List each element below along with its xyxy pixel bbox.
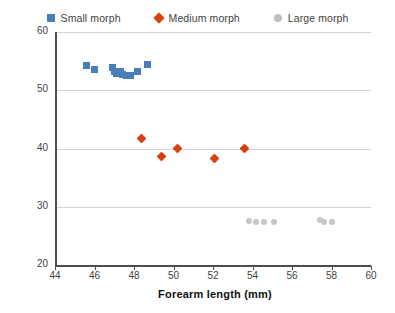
y-tick-label: 60 — [28, 25, 48, 36]
y-tick-label: 50 — [28, 83, 48, 94]
y-axis-line — [55, 32, 57, 267]
x-tick-label: 58 — [320, 270, 344, 281]
x-tick-label: 54 — [241, 270, 265, 281]
x-tick-label: 50 — [162, 270, 186, 281]
x-tick-label: 46 — [83, 270, 107, 281]
gridline — [55, 32, 371, 33]
data-point-diamond — [240, 144, 250, 154]
y-tick-label: 30 — [28, 200, 48, 211]
data-point-circle — [246, 218, 252, 224]
x-axis-line — [55, 265, 371, 267]
data-point-circle — [321, 219, 327, 225]
x-tick-label: 60 — [359, 270, 383, 281]
data-point-diamond — [157, 152, 167, 162]
x-tick-label: 56 — [280, 270, 304, 281]
data-point-circle — [329, 219, 335, 225]
gridline — [55, 90, 371, 91]
data-point-square — [134, 68, 141, 75]
chart-figure: Small morph Medium morph Large morph Sou… — [0, 0, 395, 313]
data-point-circle — [261, 219, 267, 225]
data-point-diamond — [172, 144, 182, 154]
y-tick-label: 40 — [28, 142, 48, 153]
gridline — [55, 207, 371, 208]
data-point-square — [127, 72, 134, 79]
x-tick-label: 44 — [43, 270, 67, 281]
data-point-square — [144, 61, 151, 68]
data-point-circle — [253, 219, 259, 225]
data-point-square — [83, 62, 90, 69]
data-point-circle — [271, 219, 277, 225]
plot-area: Sound wave frequency (kHz) Forearm lengt… — [0, 0, 395, 313]
data-point-diamond — [137, 133, 147, 143]
x-tick-label: 48 — [122, 270, 146, 281]
x-axis-title: Forearm length (mm) — [55, 288, 375, 300]
data-point-square — [91, 66, 98, 73]
gridline — [55, 149, 371, 150]
data-point-diamond — [210, 154, 220, 164]
y-tick-label: 20 — [28, 258, 48, 269]
x-tick-label: 52 — [201, 270, 225, 281]
